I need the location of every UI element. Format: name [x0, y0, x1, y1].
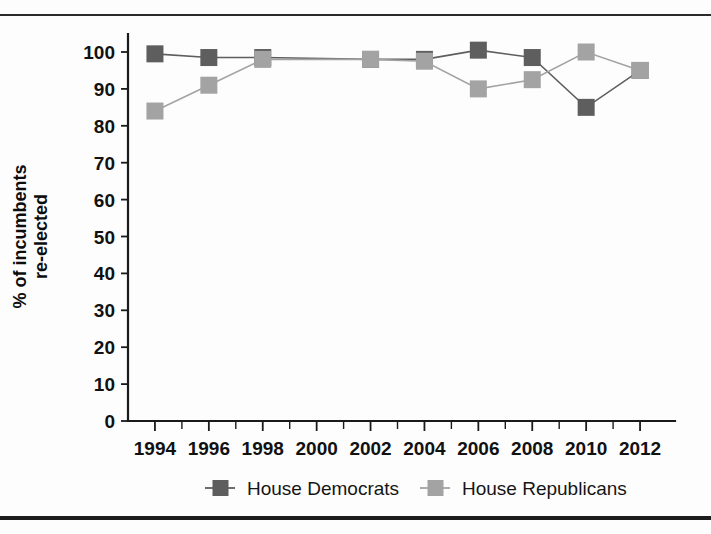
y-axis-title-line: re-elected [31, 194, 51, 279]
legend-marker-swatch [428, 480, 444, 496]
x-tick-label: 2004 [403, 438, 446, 459]
data-point-marker[interactable] [524, 49, 541, 66]
x-tick-label: 2000 [296, 438, 338, 459]
data-point-marker[interactable] [470, 42, 487, 59]
data-point-marker[interactable] [632, 62, 649, 79]
y-tick-label: 60 [94, 190, 115, 211]
legend-item[interactable]: House Democrats [205, 478, 399, 499]
y-tick-label: 10 [94, 374, 115, 395]
data-point-marker[interactable] [416, 53, 433, 70]
figure-canvas: 0102030405060708090100199419961998200020… [0, 0, 711, 534]
legend-marker-swatch [213, 480, 229, 496]
legend-item[interactable]: House Republicans [420, 478, 627, 499]
y-tick-label: 30 [94, 300, 115, 321]
data-point-marker[interactable] [254, 51, 271, 68]
x-tick-label: 1996 [188, 438, 230, 459]
y-tick-label: 40 [94, 263, 115, 284]
y-tick-label: 90 [94, 79, 115, 100]
data-point-marker[interactable] [362, 51, 379, 68]
top-divider-rule [0, 14, 711, 16]
series-line-1 [155, 52, 640, 111]
y-tick-label: 80 [94, 116, 115, 137]
y-tick-label: 70 [94, 153, 115, 174]
y-tick-label: 20 [94, 337, 115, 358]
bottom-divider-rule [0, 516, 711, 520]
y-tick-label: 100 [83, 42, 115, 63]
data-point-marker[interactable] [470, 80, 487, 97]
x-tick-label: 2008 [511, 438, 553, 459]
y-tick-label: 0 [104, 411, 115, 432]
data-point-marker[interactable] [578, 44, 595, 61]
data-point-marker[interactable] [524, 71, 541, 88]
legend-label: House Republicans [462, 478, 627, 499]
y-axis-title: % of incumbentsre-elected [10, 164, 51, 308]
x-tick-label: 1998 [242, 438, 284, 459]
data-point-marker[interactable] [578, 99, 595, 116]
series-line-0 [155, 50, 640, 107]
line-chart: 0102030405060708090100199419961998200020… [0, 18, 711, 513]
data-point-marker[interactable] [200, 77, 217, 94]
y-tick-label: 50 [94, 227, 115, 248]
y-axis-title-line: % of incumbents [10, 164, 30, 308]
data-point-marker[interactable] [200, 49, 217, 66]
data-point-marker[interactable] [146, 103, 163, 120]
x-tick-label: 2012 [619, 438, 661, 459]
legend-label: House Democrats [247, 478, 399, 499]
x-tick-label: 2006 [457, 438, 499, 459]
x-tick-label: 2002 [349, 438, 391, 459]
chart-plot-area: 0102030405060708090100199419961998200020… [0, 18, 711, 513]
x-tick-label: 2010 [565, 438, 607, 459]
data-point-marker[interactable] [146, 45, 163, 62]
x-tick-label: 1994 [134, 438, 177, 459]
